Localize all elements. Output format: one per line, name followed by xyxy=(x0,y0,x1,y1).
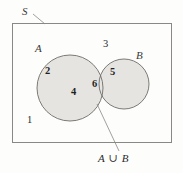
element-3: 3 xyxy=(103,39,108,50)
element-4: 4 xyxy=(71,87,76,98)
element-1: 1 xyxy=(27,115,32,126)
union-leader-line xyxy=(97,104,119,151)
element-5: 5 xyxy=(110,67,115,78)
set-B-label: B xyxy=(136,50,143,61)
universal-set-label: S xyxy=(22,6,28,17)
set-A-label: A xyxy=(35,43,42,54)
element-2: 2 xyxy=(45,66,50,77)
element-6: 6 xyxy=(92,79,97,90)
venn-diagram-figure: S A B 2 4 6 5 3 1 A ∪ B xyxy=(0,0,183,173)
union-caption: A ∪ B xyxy=(98,153,129,164)
universal-set-leader-line xyxy=(33,14,45,24)
